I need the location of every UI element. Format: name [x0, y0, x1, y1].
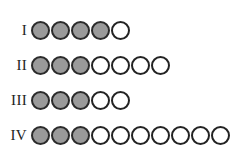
empty-circle [91, 56, 110, 75]
filled-circle [51, 91, 70, 110]
empty-circle [151, 126, 170, 145]
filled-circle [71, 126, 90, 145]
empty-circle [111, 56, 130, 75]
filled-circle [71, 91, 90, 110]
diagram-row: IV [0, 118, 239, 153]
circle-group-iv [31, 126, 231, 145]
row-label-iv: IV [0, 128, 27, 143]
filled-circle [31, 126, 50, 145]
empty-circle [191, 126, 210, 145]
filled-circle [71, 56, 90, 75]
filled-circle [31, 56, 50, 75]
empty-circle [131, 56, 150, 75]
circle-group-ii [31, 56, 171, 75]
empty-circle [211, 126, 230, 145]
filled-circle [51, 56, 70, 75]
empty-circle [111, 21, 130, 40]
row-label-ii: II [0, 58, 27, 73]
filled-circle [71, 21, 90, 40]
circle-rows-diagram: I II III IV [0, 0, 239, 157]
diagram-row: I [0, 13, 239, 48]
diagram-row: II [0, 48, 239, 83]
circle-group-i [31, 21, 131, 40]
empty-circle [111, 91, 130, 110]
circle-group-iii [31, 91, 131, 110]
filled-circle [51, 126, 70, 145]
filled-circle [51, 21, 70, 40]
empty-circle [111, 126, 130, 145]
empty-circle [171, 126, 190, 145]
filled-circle [31, 91, 50, 110]
empty-circle [151, 56, 170, 75]
empty-circle [91, 126, 110, 145]
filled-circle [31, 21, 50, 40]
row-label-iii: III [0, 93, 27, 108]
empty-circle [131, 126, 150, 145]
diagram-row: III [0, 83, 239, 118]
filled-circle [91, 21, 110, 40]
empty-circle [91, 91, 110, 110]
row-label-i: I [0, 23, 27, 38]
